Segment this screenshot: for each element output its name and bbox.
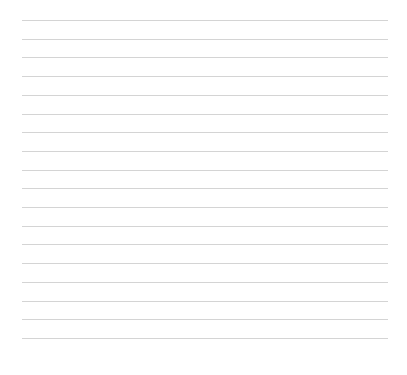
- ruled-line: [22, 132, 388, 133]
- ruled-line: [22, 319, 388, 320]
- ruled-line: [22, 226, 388, 227]
- ruled-line: [22, 263, 388, 264]
- ruled-line: [22, 188, 388, 189]
- ruled-line: [22, 170, 388, 171]
- ruled-line: [22, 39, 388, 40]
- ruled-line: [22, 244, 388, 245]
- ruled-line: [22, 338, 388, 339]
- ruled-line: [22, 151, 388, 152]
- ruled-line: [22, 301, 388, 302]
- ruled-line: [22, 57, 388, 58]
- ruled-line: [22, 282, 388, 283]
- ruled-line: [22, 20, 388, 21]
- ruled-line: [22, 207, 388, 208]
- ruled-line: [22, 114, 388, 115]
- ruled-line: [22, 95, 388, 96]
- lined-paper: [0, 0, 407, 375]
- ruled-line: [22, 76, 388, 77]
